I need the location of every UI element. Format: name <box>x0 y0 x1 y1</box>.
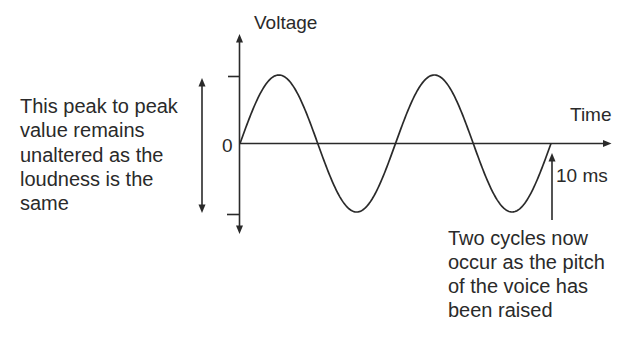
x-axis <box>240 140 612 147</box>
y-axis-down-arrow-icon <box>236 226 243 235</box>
arrow-up-icon <box>199 78 206 87</box>
x-axis-right-arrow-icon <box>603 140 612 147</box>
period-label: 10 ms <box>556 166 608 185</box>
origin-label: 0 <box>222 136 233 155</box>
y-axis-up-arrow-icon <box>236 34 243 43</box>
period-marker-arrow <box>549 153 556 220</box>
y-axis-label: Voltage <box>254 13 317 32</box>
arrow-down-icon <box>199 205 206 214</box>
annotation-line: occur as the pitch <box>448 250 605 274</box>
annotation-line: been raised <box>448 298 605 322</box>
amplitude-annotation: This peak to peak value remains unaltere… <box>20 94 178 215</box>
arrow-up-icon <box>549 153 556 162</box>
voltage-time-waveform-figure: Voltage Time 0 10 ms This peak to peak v… <box>0 0 628 339</box>
annotation-line: loudness is the <box>20 167 178 191</box>
annotation-line: same <box>20 191 178 215</box>
peak-to-peak-arrow <box>199 78 206 213</box>
annotation-line: Two cycles now <box>448 226 605 250</box>
annotation-line: This peak to peak <box>20 94 178 118</box>
annotation-line: unaltered as the <box>20 143 178 167</box>
pitch-annotation: Two cycles now occur as the pitch of the… <box>448 226 605 322</box>
x-axis-label: Time <box>570 105 612 124</box>
annotation-line: of the voice has <box>448 274 605 298</box>
annotation-line: value remains <box>20 118 178 142</box>
y-axis <box>227 34 243 234</box>
